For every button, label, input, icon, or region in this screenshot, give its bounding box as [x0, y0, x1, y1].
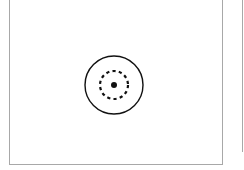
center-dot [111, 82, 117, 88]
right-panel-edge [242, 0, 244, 152]
target-svg [83, 54, 145, 116]
target-icon[interactable] [83, 54, 145, 116]
canvas [0, 0, 244, 170]
